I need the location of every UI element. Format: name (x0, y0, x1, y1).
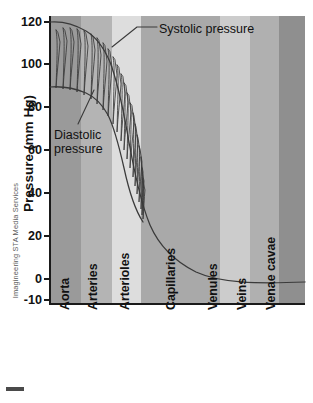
x-tick-label-veins: Veins (235, 210, 249, 310)
y-tick-label-80: 80 (0, 101, 42, 114)
y-tick-label-120: 120 (0, 16, 42, 29)
systolic-pressure-annotation: Systolic pressure (159, 22, 254, 36)
y-tick-label-0: 0 (0, 273, 42, 286)
y-tick-label-neg10: -10 (0, 294, 42, 307)
pressure-figure: Imagineering STA Media Services Pressure… (0, 0, 313, 403)
diastolic-pressure-annotation: Diastolic pressure (54, 128, 126, 156)
x-tick-label-venae-cavae: Venae cavae (264, 210, 278, 310)
y-tick-label-100: 100 (0, 58, 42, 71)
x-tick-label-aorta: Aorta (58, 210, 72, 310)
x-tick-label-capillaries: Capillaries (164, 210, 178, 310)
x-tick-label-arterioles: Arterioles (118, 210, 132, 310)
x-tick-label-venules: Venules (206, 210, 220, 310)
y-axis-ticks: 120 100 80 60 40 20 0 -10 (0, 0, 49, 403)
y-tick-label-20: 20 (0, 230, 42, 243)
caption-fragment (6, 387, 24, 391)
band-venae-cavae (279, 16, 305, 303)
y-tick-label-60: 60 (0, 144, 42, 157)
y-tick-label-40: 40 (0, 187, 42, 200)
x-tick-label-arteries: Arteries (86, 210, 100, 310)
